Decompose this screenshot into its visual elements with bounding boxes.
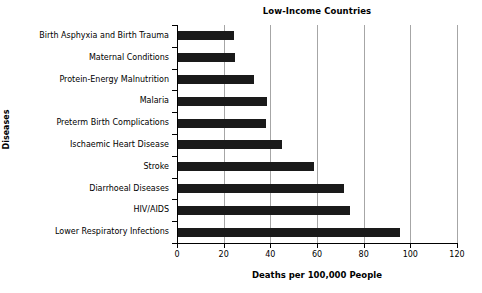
y-tick-label: Malaria (0, 96, 169, 105)
bar (177, 119, 266, 128)
bar-chart: Low-Income Countries Diseases Birth Asph… (0, 0, 482, 293)
plot-area (177, 25, 457, 243)
y-axis-title: Diseases (2, 100, 11, 160)
bar (177, 97, 267, 106)
y-tick-mark (172, 69, 177, 70)
x-tick-mark (457, 243, 458, 248)
bar (177, 53, 235, 62)
y-tick-label: Diarrhoeal Diseases (0, 184, 169, 193)
y-tick-label: Birth Asphyxia and Birth Trauma (0, 31, 169, 40)
y-tick-label: Preterm Birth Complications (0, 118, 169, 127)
y-tick-label: Maternal Conditions (0, 53, 169, 62)
y-tick-mark (172, 221, 177, 222)
y-tick-mark (172, 156, 177, 157)
x-tick-mark (224, 243, 225, 248)
gridline (364, 25, 365, 243)
x-tick-label: 0 (157, 250, 197, 259)
y-tick-label: Protein-Energy Malnutrition (0, 75, 169, 84)
y-tick-mark (172, 178, 177, 179)
y-tick-label: Ischaemic Heart Disease (0, 140, 169, 149)
x-tick-mark (410, 243, 411, 248)
y-tick-mark (172, 90, 177, 91)
x-tick-mark (270, 243, 271, 248)
bar (177, 31, 234, 40)
bar (177, 162, 314, 171)
x-tick-mark (364, 243, 365, 248)
bar (177, 228, 400, 237)
bar (177, 140, 282, 149)
x-tick-label: 100 (390, 250, 430, 259)
x-tick-label: 80 (344, 250, 384, 259)
chart-title: Low-Income Countries (177, 6, 457, 16)
y-tick-label: Stroke (0, 162, 169, 171)
y-tick-mark (172, 47, 177, 48)
x-tick-label: 120 (437, 250, 477, 259)
y-tick-mark (172, 112, 177, 113)
y-tick-mark (172, 25, 177, 26)
x-tick-label: 20 (204, 250, 244, 259)
gridline (457, 25, 458, 243)
x-axis-title: Deaths per 100,000 People (177, 270, 457, 280)
gridline (410, 25, 411, 243)
x-tick-label: 60 (297, 250, 337, 259)
y-tick-label: HIV/AIDS (0, 205, 169, 214)
bar (177, 184, 344, 193)
y-tick-mark (172, 199, 177, 200)
y-tick-mark (172, 134, 177, 135)
x-tick-mark (317, 243, 318, 248)
bar (177, 75, 254, 84)
x-tick-mark (177, 243, 178, 248)
x-tick-label: 40 (250, 250, 290, 259)
y-axis-line (177, 25, 178, 244)
bar (177, 206, 350, 215)
y-tick-label: Lower Respiratory Infections (0, 227, 169, 236)
